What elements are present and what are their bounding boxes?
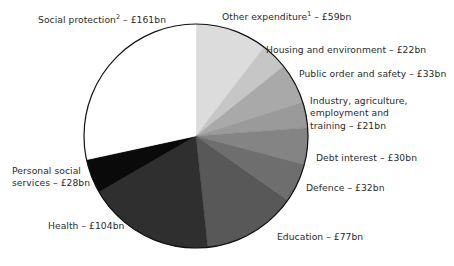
label-social-protection-name: Social protection [38, 14, 116, 25]
label-industry-line-1: Industry, agriculture, [310, 95, 408, 106]
label-defence: Defence – £32bn [306, 182, 385, 194]
label-education: Education – £77bn [277, 231, 363, 243]
label-social-protection: Social protection2 – £161bn [38, 14, 166, 26]
label-personal-social-line-1: Personal social [12, 165, 81, 176]
label-social-protection-value: – £161bn [120, 14, 166, 25]
label-other-expenditure-value: – £59bn [311, 11, 351, 22]
label-other-expenditure-name: Other expenditure [222, 11, 307, 22]
label-health: Health – £104bn [48, 220, 124, 232]
label-personal-social-line-2: services – £28bn [12, 177, 90, 188]
label-industry-agriculture-employment-training: Industry, agriculture,employment andtrai… [310, 95, 408, 132]
pie-chart-figure: Social protection2 – £161bn Other expend… [0, 0, 454, 266]
label-housing-and-environment: Housing and environment – £22bn [266, 44, 426, 56]
pie-slice-group [84, 24, 308, 248]
label-other-expenditure: Other expenditure1 – £59bn [222, 11, 351, 23]
label-industry-line-3: training – £21bn [310, 120, 386, 131]
label-public-order-and-safety: Public order and safety – £33bn [299, 68, 446, 80]
pie-slice [84, 24, 196, 160]
label-personal-social-services: Personal socialservices – £28bn [12, 165, 90, 190]
label-industry-line-2: employment and [310, 107, 389, 118]
label-debt-interest: Debt interest – £30bn [316, 152, 417, 164]
